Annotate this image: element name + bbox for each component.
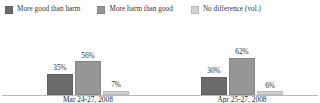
bar-more-good-than-harm[interactable]: [201, 77, 227, 95]
legend-label-series-0: More good than harm: [17, 5, 80, 14]
bar-more-good-than-harm[interactable]: [47, 74, 73, 95]
legend-swatch-icon-series-1: [97, 6, 105, 14]
legend-swatch-icon-series-0: [5, 6, 13, 14]
bar-slot-series-1: 56%: [74, 32, 102, 95]
legend-item-more-good-than-harm: More good than harm: [5, 5, 80, 14]
bar-value-label: 62%: [235, 47, 248, 56]
chart-plot-area: 35% 56% 7% Mar 24-27, 2008 30% 62%: [0, 16, 320, 103]
legend-label-series-2: No difference (vol.): [203, 5, 261, 14]
bar-value-label: 56%: [81, 51, 94, 60]
bar-value-label: 6%: [265, 81, 275, 90]
bar-group-bars: 35% 56% 7%: [46, 32, 130, 95]
category-label-group-1: Apr 25-27, 2008: [200, 95, 284, 103]
chart-legend: More good than harm More harm than good …: [0, 3, 320, 16]
category-label-group-0: Mar 24-27, 2008: [46, 95, 130, 103]
bar-more-harm-than-good[interactable]: [229, 58, 255, 95]
bar-group-bars: 30% 62% 6%: [200, 32, 284, 95]
bar-more-harm-than-good[interactable]: [75, 61, 101, 95]
bar-group-mar-24-27-2008: 35% 56% 7% Mar 24-27, 2008: [46, 16, 130, 95]
bar-value-label: 35%: [53, 63, 66, 72]
bar-group-apr-25-27-2008: 30% 62% 6% Apr 25-27, 2008: [200, 16, 284, 95]
bar-slot-series-1: 62%: [228, 32, 256, 95]
bar-value-label: 30%: [207, 66, 220, 75]
bar-slot-series-2: 7%: [102, 32, 130, 95]
bar-slot-series-2: 6%: [256, 32, 284, 95]
bar-value-label: 7%: [111, 80, 121, 89]
bar-slot-series-0: 35%: [46, 32, 74, 95]
legend-item-no-difference: No difference (vol.): [191, 5, 261, 14]
legend-label-series-1: More harm than good: [109, 5, 172, 14]
legend-swatch-icon-series-2: [191, 6, 199, 14]
legend-item-more-harm-than-good: More harm than good: [97, 5, 172, 14]
bar-slot-series-0: 30%: [200, 32, 228, 95]
